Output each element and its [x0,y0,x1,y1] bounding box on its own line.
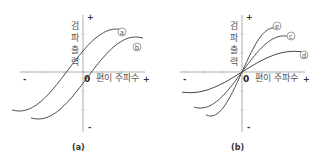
panel-a: + - - + 0 편이 주파수 검 파 출 력 a b (a) [12,13,150,152]
curve-label-e: e [273,22,281,31]
curve-a [12,29,124,111]
y-axis-label-char-3: 출 [230,45,238,55]
discriminator-characteristic-figure: + - - + 0 편이 주파수 검 파 출 력 a b (a) + - - +… [0,0,324,165]
x-minus-sign: - [183,75,186,84]
x-plus-sign: + [143,75,150,84]
curve-label-b: b [133,43,141,52]
y-plus-sign: + [87,13,94,22]
svg-text:b: b [135,44,140,52]
panel-b: + - - + 0 편이 주파수 검 파 출 력 e c d (b) [180,13,310,152]
x-axis-label: 편이 주파수 [96,72,139,83]
svg-text:c: c [289,33,293,41]
x-minus-sign: - [23,75,26,84]
svg-text:e: e [275,23,279,31]
curve-label-d: d [300,51,308,60]
y-axis-label-char-4: 력 [230,56,238,67]
panel-caption: (b) [231,143,244,152]
y-minus-sign: - [88,123,91,132]
curve-label-c: c [287,32,295,41]
y-minus-sign: - [247,123,250,132]
svg-text:d: d [302,52,306,60]
x-plus-sign: + [303,75,310,84]
y-axis-label-char-3: 출 [71,45,79,55]
x-axis-label: 편이 주파수 [255,72,298,83]
y-axis-label-char-1: 검 [71,20,79,31]
y-axis-label-char-2: 파 [230,33,239,43]
panel-caption: (a) [72,143,85,152]
svg-text:a: a [120,29,124,37]
y-axis-label-char-1: 검 [230,20,238,31]
curve-label-a: a [118,28,126,37]
y-axis-label-char-2: 파 [71,33,80,43]
y-plus-sign: + [246,13,253,22]
origin-label: 0 [243,74,249,84]
